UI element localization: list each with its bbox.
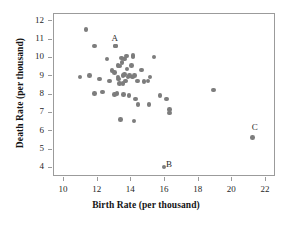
x-tick-mark bbox=[130, 177, 131, 181]
data-point bbox=[148, 75, 153, 80]
data-point bbox=[132, 73, 137, 78]
data-point bbox=[250, 135, 255, 140]
x-tick-mark bbox=[164, 177, 165, 181]
x-tick-label: 20 bbox=[227, 185, 236, 194]
data-point bbox=[112, 70, 117, 75]
data-point bbox=[133, 97, 138, 102]
data-point bbox=[167, 111, 172, 116]
data-point bbox=[158, 93, 163, 98]
point-annotation-b: B bbox=[166, 160, 172, 169]
y-axis-label: Death Rate (per thousand) bbox=[15, 18, 25, 168]
y-tick-label: 11 bbox=[35, 34, 44, 43]
data-point bbox=[131, 55, 136, 60]
y-tick-mark bbox=[48, 167, 52, 168]
y-tick-label: 4 bbox=[40, 162, 45, 171]
data-point bbox=[105, 57, 110, 62]
y-tick-mark bbox=[48, 20, 52, 21]
data-point bbox=[92, 91, 97, 96]
y-tick-mark bbox=[48, 57, 52, 58]
y-tick-mark bbox=[48, 39, 52, 40]
x-tick-mark bbox=[265, 177, 266, 181]
x-tick-label: 14 bbox=[126, 185, 135, 194]
x-tick-mark bbox=[198, 177, 199, 181]
data-point bbox=[135, 79, 140, 84]
y-tick-label: 12 bbox=[35, 16, 44, 25]
y-tick-label: 9 bbox=[40, 71, 45, 80]
data-point bbox=[127, 93, 132, 98]
data-point bbox=[87, 73, 92, 78]
y-tick-mark bbox=[48, 94, 52, 95]
data-point bbox=[152, 55, 157, 60]
data-point bbox=[129, 63, 134, 68]
data-points-layer bbox=[54, 14, 274, 175]
x-tick-mark bbox=[231, 177, 232, 181]
y-tick-label: 7 bbox=[40, 107, 45, 116]
y-tick-mark bbox=[48, 130, 52, 131]
data-point bbox=[211, 88, 216, 93]
data-point bbox=[113, 44, 118, 49]
data-point bbox=[139, 68, 144, 73]
data-point bbox=[78, 75, 83, 80]
point-annotation-c: C bbox=[252, 123, 258, 132]
x-tick-label: 22 bbox=[260, 185, 269, 194]
y-tick-label: 5 bbox=[40, 144, 45, 153]
y-tick-mark bbox=[48, 149, 52, 150]
data-point bbox=[124, 54, 129, 59]
x-tick-mark bbox=[63, 177, 64, 181]
y-tick-label: 10 bbox=[35, 52, 44, 61]
x-tick-label: 10 bbox=[59, 185, 68, 194]
point-annotation-a: A bbox=[111, 34, 118, 43]
data-point bbox=[84, 27, 89, 32]
data-point bbox=[147, 102, 152, 107]
plot-area bbox=[53, 13, 275, 176]
data-point bbox=[115, 91, 120, 96]
data-point bbox=[92, 44, 97, 49]
data-point bbox=[100, 90, 105, 95]
data-point bbox=[123, 79, 128, 84]
x-tick-label: 16 bbox=[160, 185, 169, 194]
data-point bbox=[97, 77, 102, 82]
data-point bbox=[121, 92, 126, 97]
y-tick-label: 8 bbox=[40, 89, 45, 98]
data-point bbox=[164, 97, 169, 102]
data-point bbox=[118, 117, 123, 122]
scatter-plot-figure: Birth Rate (per thousand) Death Rate (pe… bbox=[0, 0, 292, 225]
x-tick-mark bbox=[97, 177, 98, 181]
y-tick-mark bbox=[48, 112, 52, 113]
data-point bbox=[107, 79, 112, 84]
x-tick-label: 12 bbox=[92, 185, 101, 194]
y-tick-mark bbox=[48, 75, 52, 76]
data-point bbox=[132, 119, 137, 124]
x-axis-label: Birth Rate (per thousand) bbox=[0, 200, 292, 210]
data-point bbox=[146, 79, 151, 84]
x-tick-label: 18 bbox=[193, 185, 202, 194]
y-tick-label: 6 bbox=[40, 126, 45, 135]
data-point bbox=[136, 102, 141, 107]
